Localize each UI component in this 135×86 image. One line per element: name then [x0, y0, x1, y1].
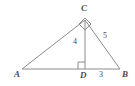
vertex-label-b: B [122, 70, 128, 79]
vertex-label-d: D [80, 71, 87, 80]
vertex-label-c: C [81, 4, 87, 13]
right-angle-mark-d [78, 62, 85, 69]
geometry-figure: A B C D 4 3 5 [0, 0, 135, 86]
segment-cb [85, 20, 120, 69]
vertex-label-a: A [14, 70, 20, 79]
triangle-diagram-svg [0, 0, 135, 86]
length-label-db: 3 [99, 71, 103, 79]
length-label-cb: 5 [103, 32, 107, 40]
length-label-cd: 4 [73, 38, 77, 46]
